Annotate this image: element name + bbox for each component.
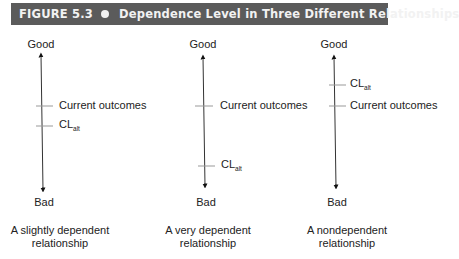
cl-subscript: alt bbox=[364, 84, 371, 91]
cl-subscript: alt bbox=[235, 165, 242, 172]
caption-line-2: relationship bbox=[165, 237, 251, 250]
caption-line-2: relationship bbox=[11, 237, 109, 250]
marker-label-cl-alt: CLalt bbox=[221, 158, 242, 172]
label-good: Good bbox=[321, 38, 348, 51]
label-good: Good bbox=[28, 38, 55, 51]
label-bad: Bad bbox=[196, 196, 216, 209]
caption-line-1: A nondependent bbox=[307, 224, 387, 237]
caption-line-1: A slightly dependent bbox=[11, 224, 109, 237]
axis-arrow-nondependent bbox=[329, 57, 346, 187]
label-bad: Bad bbox=[327, 196, 347, 209]
caption-slightly-dependent: A slightly dependent relationship bbox=[11, 224, 109, 250]
axis-arrow-very-dependent bbox=[195, 57, 215, 186]
cl-main: CL bbox=[350, 77, 364, 89]
cl-subscript: alt bbox=[73, 125, 80, 132]
cl-main: CL bbox=[59, 118, 73, 130]
marker-label-cl-alt: CLalt bbox=[59, 118, 80, 132]
marker-label-current-outcomes: Current outcomes bbox=[220, 99, 307, 112]
caption-line-1: A very dependent bbox=[165, 224, 251, 237]
caption-line-2: relationship bbox=[307, 237, 387, 250]
caption-nondependent: A nondependent relationship bbox=[307, 224, 387, 250]
cl-main: CL bbox=[221, 158, 235, 170]
marker-label-current-outcomes: Current outcomes bbox=[350, 99, 437, 112]
marker-label-cl-alt: CLalt bbox=[350, 77, 371, 91]
axis-arrow-slightly-dependent bbox=[36, 55, 53, 190]
caption-very-dependent: A very dependent relationship bbox=[165, 224, 251, 250]
marker-label-current-outcomes: Current outcomes bbox=[59, 99, 146, 112]
label-bad: Bad bbox=[34, 196, 54, 209]
label-good: Good bbox=[190, 38, 217, 51]
